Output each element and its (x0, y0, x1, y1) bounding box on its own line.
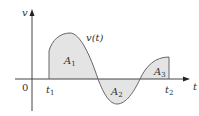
x-axis-arrow-icon (183, 77, 190, 82)
y-axis-arrow-icon (30, 9, 35, 16)
origin-label: 0 (22, 82, 28, 93)
t2-label: t2 (165, 84, 174, 97)
area-under-curve-diagram: v t 0 v(t) t1 t2 A1 A2 A3 (0, 0, 199, 116)
x-axis-label: t (193, 81, 198, 92)
t1-label: t1 (46, 84, 55, 97)
curve-label: v(t) (86, 32, 104, 43)
y-axis-label: v (22, 7, 28, 18)
